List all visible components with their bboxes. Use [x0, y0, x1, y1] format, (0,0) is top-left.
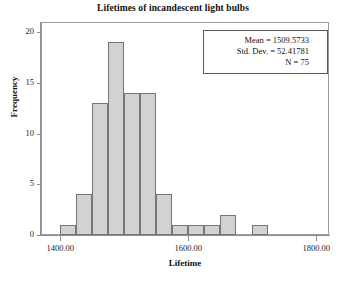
x-tick-mark [188, 236, 189, 241]
x-tick-mark [60, 236, 61, 241]
y-tick-mark [37, 134, 41, 135]
y-tick-label: 10 [26, 128, 35, 139]
y-tick: 20 [0, 32, 41, 33]
histogram-bar [204, 225, 220, 235]
x-tick-label: 1800.00 [302, 243, 330, 254]
chart-title: Lifetimes of incandescent light bulbs [0, 3, 346, 13]
y-tick-label: 15 [26, 77, 35, 88]
y-tick: 0 [0, 235, 41, 236]
histogram-bar [76, 194, 92, 235]
x-axis-title: Lifetime [41, 258, 329, 268]
histogram-bar [172, 225, 188, 235]
y-tick: 5 [0, 184, 41, 185]
stat-n: N = 75 [210, 57, 321, 68]
y-tick-label: 5 [30, 178, 34, 189]
y-tick: 15 [0, 83, 41, 84]
y-tick: 10 [0, 134, 41, 135]
y-tick-mark [37, 83, 41, 84]
histogram-bar [252, 225, 268, 235]
statistics-box: Mean = 1509.5733 Std. Dev. = 52.41781 N … [203, 30, 328, 74]
x-tick-label: 1400.00 [46, 243, 74, 254]
y-tick-label: 20 [26, 26, 35, 37]
x-axis-line [40, 235, 330, 236]
y-tick-mark [37, 184, 41, 185]
histogram-chart: Lifetimes of incandescent light bulbs 05… [0, 0, 346, 288]
histogram-bar [60, 225, 76, 235]
y-axis-title: Frequency [9, 55, 19, 139]
x-tick-mark [316, 236, 317, 241]
x-tick-label: 1600.00 [174, 243, 202, 254]
histogram-bar [124, 93, 140, 235]
histogram-bar [188, 225, 204, 235]
stat-mean: Mean = 1509.5733 [210, 35, 321, 46]
stat-stddev: Std. Dev. = 52.41781 [210, 46, 321, 57]
histogram-bar [108, 42, 124, 235]
histogram-bar [156, 194, 172, 235]
histogram-bar [140, 93, 156, 235]
histogram-bar [220, 215, 236, 235]
y-tick-mark [37, 32, 41, 33]
y-tick-label: 0 [30, 229, 34, 240]
histogram-bar [92, 103, 108, 235]
y-axis-line [40, 22, 41, 236]
